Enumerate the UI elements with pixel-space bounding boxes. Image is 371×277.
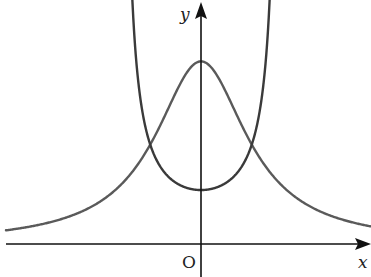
x-axis-label: x	[358, 252, 368, 272]
origin-label: O	[182, 252, 196, 272]
chart-container: y x O	[0, 0, 371, 277]
chart-svg: y x O	[0, 0, 371, 277]
curves-layer	[6, 0, 371, 230]
bell-curve	[6, 61, 371, 230]
y-axis-label: y	[179, 4, 190, 24]
